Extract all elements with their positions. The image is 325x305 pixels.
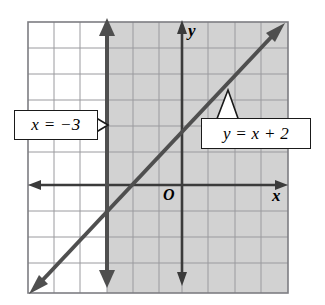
origin-label: O — [163, 186, 175, 204]
graph-figure — [0, 0, 325, 305]
callout-y-equals-x-plus-two: y = x + 2 — [201, 118, 311, 149]
callout-y-text: y = x + 2 — [223, 124, 289, 144]
y-axis-label: y — [188, 21, 196, 41]
callout-x-text: x = −3 — [31, 115, 80, 135]
x-axis-label: x — [272, 186, 281, 206]
callout-x-equals-negative-three: x = −3 — [14, 110, 98, 140]
